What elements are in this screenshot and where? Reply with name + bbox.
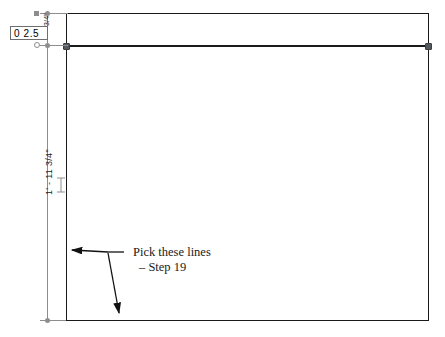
dimension-band-grip[interactable] (34, 11, 39, 16)
band-bottom-edge[interactable] (66, 45, 429, 47)
wall-left-edge[interactable] (66, 45, 67, 320)
band-top-edge[interactable] (66, 13, 429, 14)
band-left-edge[interactable] (66, 13, 67, 46)
dimension-move-grip[interactable] (34, 42, 40, 48)
dimension-text-overall-height[interactable]: 1' - 11 3/4" (44, 149, 54, 195)
dimension-endpoint-bottom[interactable] (45, 318, 50, 323)
annotation-line-2: – Step 19 (139, 260, 186, 275)
dimension-endpoint-mid[interactable] (45, 43, 50, 48)
annotation-line-1: Pick these lines (133, 245, 211, 260)
band-right-edge[interactable] (428, 13, 429, 46)
wall-right-edge[interactable] (428, 45, 429, 320)
dimension-value-input[interactable]: 0 2.5 (10, 26, 48, 40)
witness-line-bottom (40, 320, 66, 321)
dimension-text-band-height[interactable]: 3/4" (43, 13, 50, 26)
wall-bottom-edge[interactable] (66, 320, 429, 321)
cad-drawing-canvas[interactable]: 1' - 11 3/4" 3/4" 0 2.5 Pick these lines… (0, 0, 445, 337)
dimension-value-text: 0 2.5 (14, 28, 39, 39)
grip-band-bottom-right[interactable] (425, 43, 432, 50)
